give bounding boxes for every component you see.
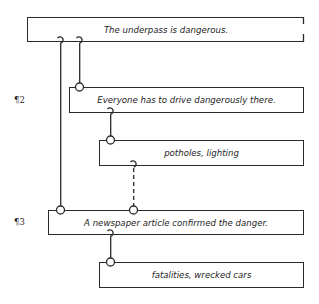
edge-reason1-claim[interactable] (76, 37, 84, 91)
edge-evidence2-reason2-anchor-icon (107, 258, 115, 266)
node-claim[interactable]: The underpass is dangerous. (27, 17, 304, 42)
edge-evidence1-reason1[interactable] (107, 108, 115, 144)
argument-diagram: ¶2 ¶3 The underpass is dangerous. Everyo… (0, 0, 319, 304)
node-reason-2[interactable]: A newspaper article confirmed the danger… (48, 210, 304, 235)
paragraph-label-3: ¶3 (14, 217, 25, 227)
node-claim-text: The underpass is dangerous. (104, 25, 228, 35)
node-reason-1-text: Everyone has to drive dangerously there. (97, 95, 275, 105)
node-evidence-1-text: potholes, lighting (164, 148, 239, 158)
edge-reason2-claim-anchor-icon (57, 206, 65, 214)
node-reason-2-text: A newspaper article confirmed the danger… (84, 218, 268, 228)
node-reason-1[interactable]: Everyone has to drive dangerously there. (69, 87, 304, 113)
edge-reason2-evidence1-anchor-icon (130, 206, 138, 214)
edge-reason2-evidence1-dashed[interactable] (130, 161, 138, 214)
node-evidence-2[interactable]: fatalities, wrecked cars (99, 262, 304, 288)
edge-evidence2-reason2[interactable] (107, 230, 115, 266)
paragraph-label-2: ¶2 (14, 95, 25, 105)
edge-reason2-claim[interactable] (57, 37, 65, 214)
edge-reason1-claim-anchor-icon (76, 83, 84, 91)
node-evidence-1[interactable]: potholes, lighting (99, 140, 304, 166)
edge-evidence1-reason1-anchor-icon (107, 136, 115, 144)
node-evidence-2-text: fatalities, wrecked cars (152, 270, 252, 280)
